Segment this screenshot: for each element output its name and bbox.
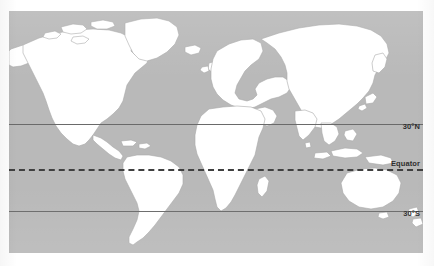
latitude-line-30n bbox=[9, 124, 423, 125]
world-map-figure: 30°N Equator 30°S bbox=[0, 0, 434, 266]
land-central-america bbox=[93, 135, 123, 160]
landmass-layer bbox=[9, 11, 423, 253]
land-iceland bbox=[185, 45, 201, 55]
land-australia bbox=[341, 168, 401, 209]
land-africa bbox=[195, 106, 265, 211]
latitude-label-30s: 30°S bbox=[403, 210, 420, 218]
land-asia bbox=[261, 24, 389, 128]
land-indonesia-1 bbox=[331, 148, 363, 158]
land-sri-lanka bbox=[305, 142, 311, 148]
latitude-line-30s bbox=[9, 211, 423, 212]
land-indonesia-2 bbox=[314, 152, 331, 159]
map-panel: 30°N Equator 30°S bbox=[9, 11, 423, 253]
land-india bbox=[295, 110, 317, 140]
latitude-label-30n: 30°N bbox=[403, 123, 420, 131]
land-sea-peninsula bbox=[321, 123, 339, 145]
latitude-line-equator bbox=[9, 169, 423, 171]
land-japan-2 bbox=[358, 104, 367, 111]
land-caribbean-2 bbox=[139, 143, 151, 149]
latitude-label-equator: Equator bbox=[391, 160, 420, 168]
land-philippines bbox=[344, 129, 357, 141]
land-new-zealand-2 bbox=[412, 218, 423, 227]
land-arctic-islands-2 bbox=[91, 20, 115, 29]
land-caribbean-1 bbox=[121, 140, 137, 146]
land-british-isles-2 bbox=[200, 66, 209, 73]
land-tasmania bbox=[378, 212, 389, 219]
land-japan-1 bbox=[365, 93, 377, 104]
land-new-guinea bbox=[365, 155, 393, 165]
land-madagascar bbox=[257, 176, 269, 197]
